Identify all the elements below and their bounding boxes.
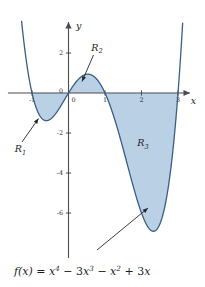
x-tick-label-0: 0 (72, 96, 76, 104)
y-axis-arrowhead (65, 22, 71, 29)
y-tick-label-0: 0 (59, 87, 63, 95)
region-label-r1: R1 (14, 143, 26, 157)
svg-text:f(x) = x4 − 3x3 − x2 + 3x: f(x) = x4 − 3x3 − x2 + 3x (13, 264, 151, 278)
leader-r3 (97, 208, 148, 250)
graph-figure: -1012320-2-4-6R1R2R3xyf(x) = x4 − 3x3 − … (0, 0, 205, 287)
x-axis-label: x (191, 95, 197, 106)
x-tick-label-2: 2 (139, 96, 143, 104)
y-axis-label: y (75, 20, 82, 31)
y-tick-label-2: 2 (59, 49, 63, 57)
function-plot: -1012320-2-4-6R1R2R3xyf(x) = x4 − 3x3 − … (0, 0, 205, 287)
region-fill-r1 (32, 93, 69, 121)
equation-caption: f(x) = x4 − 3x3 − x2 + 3x (13, 264, 151, 278)
x-axis-arrowhead (184, 90, 191, 96)
y-tick-label--2: -2 (57, 129, 63, 137)
region-label-r2: R2 (90, 42, 102, 56)
svg-text:R2: R2 (90, 42, 102, 56)
y-tick-label--4: -4 (57, 169, 63, 177)
svg-text:R1: R1 (14, 143, 26, 157)
y-tick-label--6: -6 (57, 209, 63, 217)
leader-r1-arrowhead (34, 119, 39, 124)
region-fill-r3 (105, 93, 178, 231)
